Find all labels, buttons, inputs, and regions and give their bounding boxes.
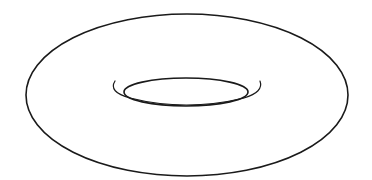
torus-drawing xyxy=(0,0,372,180)
torus-outer-edge xyxy=(26,14,348,176)
torus-hole-edge xyxy=(124,78,248,106)
